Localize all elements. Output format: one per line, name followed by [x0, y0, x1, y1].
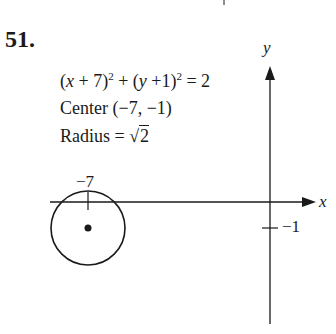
- center-point: [85, 225, 92, 232]
- y-axis-arrow-icon: [265, 66, 275, 80]
- y-axis-label: y: [263, 38, 271, 58]
- y-tick-label: −1: [282, 217, 300, 237]
- x-axis-label: x: [319, 192, 327, 212]
- graph: [0, 0, 336, 334]
- x-axis-arrow-icon: [302, 197, 316, 207]
- x-tick-label: −7: [76, 172, 94, 192]
